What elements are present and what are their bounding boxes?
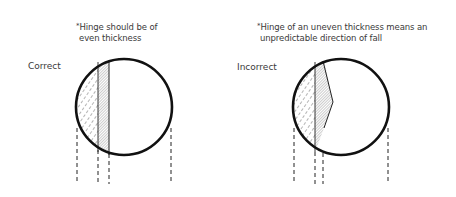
hinge-diagram (0, 0, 456, 197)
correct-trunk-diagram (70, 55, 172, 184)
incorrect-trunk-diagram (285, 55, 389, 184)
notch-area (70, 55, 98, 165)
